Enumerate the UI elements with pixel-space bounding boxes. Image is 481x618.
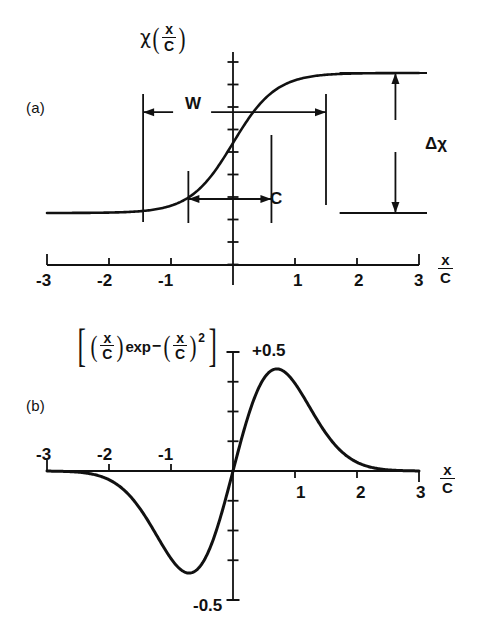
axis-label-numerator: x xyxy=(440,462,455,479)
x-over-c-fraction-2: x C xyxy=(173,331,187,363)
close-paren-1-icon: ) xyxy=(117,331,124,361)
panel-b-ytick-top: +0.5 xyxy=(252,342,286,359)
exp-text: exp xyxy=(125,339,150,354)
panel-b-tag: (b) xyxy=(26,398,45,413)
panel-a-center-label: C xyxy=(270,190,282,207)
axis-label-denominator: C xyxy=(438,269,453,286)
panel-a-amplitude-label: Δχ xyxy=(425,135,447,152)
panel-a-xtick-2: 2 xyxy=(354,272,363,289)
panel-a-xtick-neg3: -3 xyxy=(36,272,51,289)
panel-b-xtick-neg3: -3 xyxy=(36,446,51,463)
fraction-denominator: C xyxy=(162,38,176,54)
close-paren-2-icon: ) xyxy=(190,331,197,361)
close-bracket-icon: ] xyxy=(208,328,216,365)
axis-label-denominator: C xyxy=(440,479,455,496)
panel-b-formula-label: [ ( x C ) exp − ( x C ) 2 ] xyxy=(74,328,220,365)
axis-label-numerator: x xyxy=(438,252,453,269)
panel-a-y-axis-label: χ ( x C ) xyxy=(140,22,187,54)
exponent-two: 2 xyxy=(198,332,205,344)
panel-a-plot xyxy=(0,0,481,300)
x-over-c-fraction-1: x C xyxy=(100,331,114,363)
fraction-1-denominator: C xyxy=(100,346,114,362)
panel-a-width-arrowhead-left xyxy=(143,108,154,116)
panel-a-width-arrowhead-right xyxy=(315,108,326,116)
close-paren-icon: ) xyxy=(179,23,186,53)
open-paren-icon: ( xyxy=(152,23,159,53)
fraction-2-denominator: C xyxy=(173,346,187,362)
panel-b-x-axis-label: x C xyxy=(440,462,455,496)
panel-a-amplitude-arrowhead-up xyxy=(391,73,399,84)
panel-a-width-label: W xyxy=(185,95,201,112)
open-bracket-icon: [ xyxy=(77,328,85,365)
chi-symbol: χ xyxy=(140,28,151,47)
minus-sign: − xyxy=(151,338,162,354)
panel-a-amplitude-arrowhead-down xyxy=(391,202,399,213)
figure-root: (a) χ ( x C ) x C -3 -2 -1 1 2 3 W C Δχ … xyxy=(0,0,481,618)
fraction-1-numerator: x xyxy=(100,331,114,347)
panel-b-plot xyxy=(0,300,481,618)
panel-b-xtick-neg1: -1 xyxy=(158,446,173,463)
panel-a-x-axis-label: x C xyxy=(438,252,453,286)
panel-b-xtick-neg2: -2 xyxy=(97,446,112,463)
open-paren-2-icon: ( xyxy=(164,331,171,361)
panel-a-xtick-1: 1 xyxy=(293,272,302,289)
panel-a-xtick-neg2: -2 xyxy=(97,272,112,289)
panel-a-xtick-neg1: -1 xyxy=(158,272,173,289)
panel-a-xtick-3: 3 xyxy=(414,272,423,289)
open-paren-1-icon: ( xyxy=(91,331,98,361)
panel-b-ytick-bottom: -0.5 xyxy=(193,597,222,614)
fraction-2-numerator: x xyxy=(173,331,187,347)
fraction-numerator: x xyxy=(162,22,176,38)
panel-b-xtick-1: 1 xyxy=(296,484,305,501)
x-over-c-fraction: x C xyxy=(162,22,176,54)
panel-a-tag: (a) xyxy=(26,100,45,115)
panel-b-xtick-2: 2 xyxy=(356,484,365,501)
panel-b-xtick-3: 3 xyxy=(416,484,425,501)
